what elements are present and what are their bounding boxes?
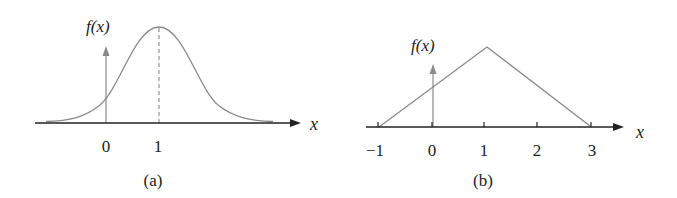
tick-label-3: 3 (588, 141, 597, 160)
tick-label-2: 2 (533, 141, 542, 160)
triangle-density (379, 47, 590, 127)
tick-label-neg1: −1 (366, 141, 384, 160)
y-axis-arrow-icon (103, 46, 110, 56)
y-axis-arrow-icon (430, 64, 437, 74)
panel-b: f(x) x −1 0 1 2 3 (b) (366, 36, 644, 190)
tick-label-0: 0 (102, 137, 111, 156)
y-axis-label: f(x) (86, 17, 110, 36)
y-axis-label: f(x) (411, 36, 435, 55)
x-axis-label: x (635, 122, 644, 142)
caption-b: (b) (473, 171, 493, 190)
x-axis-arrow-icon (613, 123, 624, 131)
tick-label-0: 0 (428, 141, 437, 160)
x-axis-arrow-icon (290, 119, 301, 127)
panel-a: f(x) x 0 1 (a) (35, 17, 318, 190)
figure: f(x) x 0 1 (a) f(x) x −1 0 1 2 3 (b) (0, 0, 677, 198)
caption-a: (a) (144, 171, 163, 190)
tick-label-1: 1 (154, 137, 163, 156)
x-axis-label: x (309, 114, 318, 134)
tick-label-1: 1 (480, 141, 489, 160)
